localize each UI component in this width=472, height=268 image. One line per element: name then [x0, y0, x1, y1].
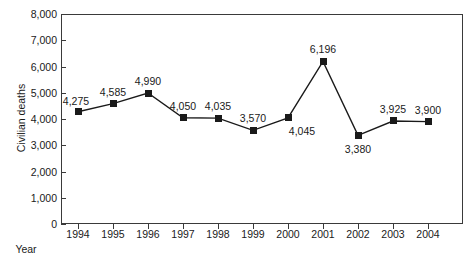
x-tick-mark: [183, 224, 184, 229]
x-tick-label: 1996: [128, 228, 168, 240]
x-tick-label: 1999: [233, 228, 273, 240]
x-tick-mark: [218, 224, 219, 229]
x-tick-mark: [253, 224, 254, 229]
y-tick-mark: [61, 224, 66, 225]
y-tick-mark: [61, 93, 66, 94]
plot-area: [61, 14, 463, 224]
x-tick-label: 1997: [163, 228, 203, 240]
y-tick-label: 8,000: [9, 9, 57, 19]
y-tick-mark: [61, 119, 66, 120]
x-tick-label: 2000: [268, 228, 308, 240]
x-tick-label: 2002: [338, 228, 378, 240]
x-tick-label: 1994: [58, 228, 98, 240]
x-tick-label: 1995: [93, 228, 133, 240]
y-tick-label: 7,000: [9, 35, 57, 45]
x-tick-mark: [428, 224, 429, 229]
x-tick-label: 1998: [198, 228, 238, 240]
y-tick-mark: [61, 198, 66, 199]
x-tick-mark: [113, 224, 114, 229]
x-tick-label: 2004: [408, 228, 448, 240]
y-tick-label: 0: [9, 219, 57, 229]
x-tick-mark: [288, 224, 289, 229]
y-tick-mark: [61, 40, 66, 41]
x-tick-mark: [323, 224, 324, 229]
y-tick-mark: [61, 145, 66, 146]
x-tick-mark: [78, 224, 79, 229]
y-tick-label: 1,000: [9, 193, 57, 203]
x-tick-label: 2001: [303, 228, 343, 240]
x-axis-title: Year: [0, 243, 472, 255]
y-tick-mark: [61, 172, 66, 173]
x-tick-mark: [393, 224, 394, 229]
x-tick-mark: [358, 224, 359, 229]
y-tick-mark: [61, 67, 66, 68]
y-axis: 01,0002,0003,0004,0005,0006,0007,0008,00…: [0, 0, 57, 268]
x-tick-label: 2003: [373, 228, 413, 240]
y-axis-title: Civilian deaths: [15, 48, 27, 188]
line-chart-figure: 01,0002,0003,0004,0005,0006,0007,0008,00…: [0, 0, 472, 268]
x-axis-title-text: Year: [15, 243, 36, 255]
x-tick-mark: [148, 224, 149, 229]
